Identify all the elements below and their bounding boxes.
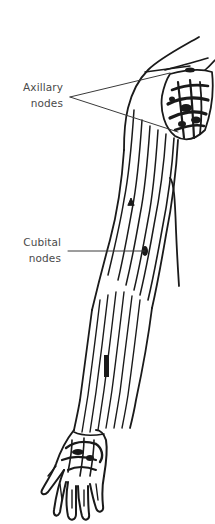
lateral-vessel	[170, 178, 179, 286]
axillary-label-line-1: Axillary	[8, 79, 63, 95]
axillary-node-cluster	[162, 60, 215, 139]
cubital-label-line-2: nodes	[6, 250, 61, 266]
shoulder-outline	[124, 37, 199, 150]
forearm-vessels	[74, 292, 152, 432]
axillary-leader-upper	[70, 73, 170, 97]
arm-lymphatics-diagram: Axillary nodes Cubital nodes	[0, 0, 215, 524]
hand	[41, 430, 106, 520]
cubital-label-line-1: Cubital	[6, 234, 61, 250]
cubital-nodes-label: Cubital nodes	[6, 234, 61, 266]
upper-arm-vessels	[92, 110, 178, 310]
axillary-label-line-2: nodes	[8, 95, 63, 111]
axillary-nodes-label: Axillary nodes	[8, 79, 63, 111]
